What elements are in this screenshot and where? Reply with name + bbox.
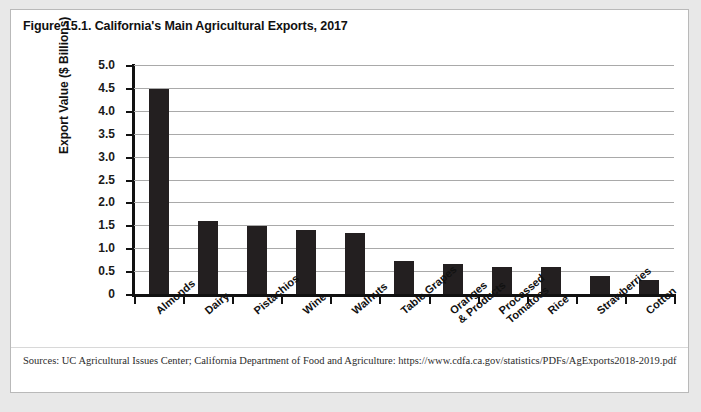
figure-card: Figure 15.1. California's Main Agricultu… — [10, 9, 689, 393]
gridline — [134, 111, 674, 112]
bar — [198, 221, 218, 294]
y-axis-tick-label: 0.5 — [98, 264, 115, 278]
y-axis-tick: 2.0 — [126, 202, 133, 204]
source-divider — [11, 347, 688, 348]
plot-area: 5.04.54.03.53.02.52.01.51.00.50 AlmondsD… — [134, 65, 674, 294]
gridline — [134, 88, 674, 89]
y-axis-tick: 0.5 — [126, 271, 133, 273]
bar — [345, 233, 365, 294]
x-axis-tick — [330, 296, 332, 304]
y-axis-tick-label: 5.0 — [98, 58, 115, 72]
y-axis-tick: 4.5 — [126, 88, 133, 90]
gridline — [134, 180, 674, 181]
gridline — [134, 65, 674, 66]
bar — [296, 230, 316, 294]
figure-title: Figure 15.1. California's Main Agricultu… — [23, 19, 348, 33]
y-axis-tick-label: 2.0 — [98, 195, 115, 209]
bar — [149, 89, 169, 294]
bar — [394, 261, 414, 294]
gridline — [134, 157, 674, 158]
y-axis-tick: 1.5 — [126, 225, 133, 227]
source-note: Sources: UC Agricultural Issues Center; … — [23, 355, 676, 366]
x-axis-tick — [576, 296, 578, 304]
y-axis-tick-label: 4.0 — [98, 104, 115, 118]
y-axis-tick-label: 2.5 — [98, 173, 115, 187]
y-axis-tick: 3.0 — [126, 157, 133, 159]
y-axis-tick-label: 0 — [108, 287, 115, 301]
y-axis-tick: 3.5 — [126, 134, 133, 136]
x-axis-tick — [232, 296, 234, 304]
gridline — [134, 134, 674, 135]
y-axis-tick-label: 3.0 — [98, 150, 115, 164]
y-axis-title: Export Value ($ Billions) — [57, 17, 71, 154]
y-axis-tick-label: 3.5 — [98, 127, 115, 141]
y-axis-tick: 5.0 — [126, 65, 133, 67]
y-axis-tick: 4.0 — [126, 111, 133, 113]
y-axis-tick: 0 — [126, 294, 133, 296]
y-axis-tick-label: 1.5 — [98, 218, 115, 232]
gridline — [134, 202, 674, 203]
bar — [247, 226, 267, 294]
y-axis-tick-label: 1.0 — [98, 241, 115, 255]
y-axis-tick-label: 4.5 — [98, 81, 115, 95]
bar — [590, 276, 610, 294]
bar-chart: Export Value ($ Billions) 5.04.54.03.53.… — [11, 44, 690, 356]
x-axis-tick — [134, 296, 136, 304]
y-axis-tick: 2.5 — [126, 180, 133, 182]
y-axis-tick: 1.0 — [126, 248, 133, 250]
